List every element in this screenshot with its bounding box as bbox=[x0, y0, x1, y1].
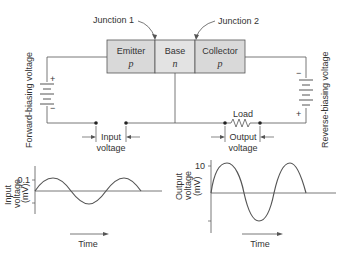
output-time-arrowhead bbox=[277, 232, 283, 236]
reverse-bias-battery bbox=[299, 80, 313, 105]
input-voltage-graph: 0.1 Input voltage (mV) Time bbox=[3, 166, 162, 249]
right-battery-plus: + bbox=[296, 109, 301, 119]
output-label-line1: Output bbox=[229, 132, 257, 142]
output-voltage-graph: 10 Output voltage (mV) Time bbox=[174, 160, 336, 249]
input-label-line1: Input bbox=[101, 132, 122, 142]
base-label: Base bbox=[165, 46, 186, 56]
output-terminal-2 bbox=[258, 121, 262, 125]
collector-type: p bbox=[217, 58, 223, 69]
forward-bias-battery bbox=[40, 84, 54, 104]
output-sine-wave bbox=[211, 163, 306, 221]
input-label-line2: voltage bbox=[96, 143, 125, 153]
input-arrowhead-right bbox=[126, 135, 131, 139]
load-resistor bbox=[225, 119, 260, 127]
input-arrowhead-left bbox=[91, 135, 96, 139]
output-graph-tick: 10 bbox=[195, 161, 205, 171]
junction-2-arrow bbox=[196, 21, 215, 38]
input-graph-xlabel: Time bbox=[78, 239, 98, 249]
junction-1-arrow bbox=[138, 21, 155, 38]
output-graph-xlabel: Time bbox=[250, 239, 270, 249]
emitter-type: p bbox=[128, 58, 134, 69]
output-graph-ylabel-3: (mV) bbox=[192, 177, 202, 197]
input-terminal-2 bbox=[124, 121, 128, 125]
output-arrowhead-left bbox=[220, 135, 225, 139]
left-battery-plus: + bbox=[50, 74, 55, 84]
collector-label: Collector bbox=[202, 46, 238, 56]
junction-1-label: Junction 1 bbox=[93, 15, 134, 25]
reverse-biasing-voltage-label: Reverse-biasing voltage bbox=[320, 51, 330, 148]
transistor-amplifier-diagram: Junction 1 Junction 2 Emitter p Base n C… bbox=[0, 0, 352, 263]
left-battery-minus: − bbox=[50, 103, 55, 113]
input-graph-ylabel-3: (mV) bbox=[20, 184, 30, 204]
forward-biasing-voltage-label: Forward-biasing voltage bbox=[24, 52, 34, 148]
junction-2-arrowhead bbox=[194, 34, 199, 40]
input-time-arrowhead bbox=[103, 232, 109, 236]
base-type: n bbox=[173, 58, 178, 69]
right-battery-minus: − bbox=[296, 68, 301, 78]
output-label-line2: voltage bbox=[228, 143, 257, 153]
emitter-label: Emitter bbox=[117, 46, 146, 56]
junction-2-label: Junction 2 bbox=[218, 16, 259, 26]
load-label: Load bbox=[233, 109, 253, 119]
output-terminal-1 bbox=[223, 121, 227, 125]
junction-1-arrowhead bbox=[152, 34, 157, 40]
output-arrowhead-right bbox=[260, 135, 265, 139]
input-terminal-1 bbox=[94, 121, 98, 125]
